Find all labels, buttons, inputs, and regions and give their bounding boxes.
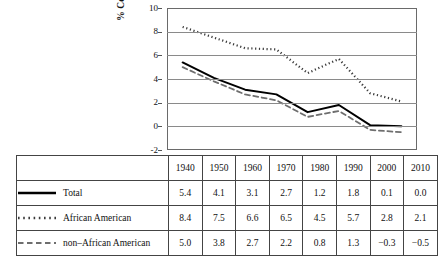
table-cell: 5.7 — [336, 206, 370, 231]
y-tick-label: -2 — [151, 146, 159, 155]
table-cell: 1.3 — [336, 231, 370, 256]
table-column-header: 1980 — [303, 156, 337, 181]
table-column-header: 1940 — [169, 156, 203, 181]
census-undercount-figure: % Census Undercount 1086420-2 1940195019… — [0, 0, 444, 265]
table-cell: 2.7 — [236, 231, 270, 256]
dashed-line-swatch — [17, 238, 57, 248]
table-cell: −0.5 — [404, 231, 438, 256]
table-cell: 2.1 — [404, 206, 438, 231]
gridline — [167, 126, 417, 127]
table-head: 19401950196019701980199020002010 — [17, 156, 438, 181]
y-tick-mark — [158, 32, 162, 33]
table-cell: 0.8 — [303, 231, 337, 256]
series-line-dashed — [183, 67, 402, 132]
table-cell: 4.5 — [303, 206, 337, 231]
table-cell: 7.5 — [202, 206, 236, 231]
y-axis-title: % Census Undercount — [113, 0, 129, 34]
table-column-header: 1960 — [236, 156, 270, 181]
plot-area — [167, 8, 417, 150]
y-axis-tick-labels: 1086420-2 — [134, 0, 162, 152]
series-line-solid — [183, 62, 402, 126]
table-cell: 1.8 — [336, 181, 370, 206]
y-tick-mark — [158, 150, 162, 151]
table-column-header: 1950 — [202, 156, 236, 181]
table-column-header: 1970 — [269, 156, 303, 181]
y-tick-mark — [158, 79, 162, 80]
gridline — [167, 32, 417, 33]
table-cell: 6.5 — [269, 206, 303, 231]
y-tick-mark — [158, 8, 162, 9]
table-row: non–African American5.03.82.72.20.81.3−0… — [17, 231, 438, 256]
table-row: Total5.44.13.12.71.21.80.10.0 — [17, 181, 438, 206]
chart-region: % Census Undercount 1086420-2 — [0, 0, 444, 152]
legend-label: non–African American — [63, 237, 150, 249]
data-table-region: 19401950196019701980199020002010 Total5.… — [16, 155, 428, 259]
solid-line-swatch — [17, 188, 57, 198]
legend-row-2: non–African American — [17, 231, 169, 256]
table-cell: 4.1 — [202, 181, 236, 206]
table-body: Total5.44.13.12.71.21.80.10.0African Ame… — [17, 181, 438, 256]
gridline — [167, 55, 417, 56]
table-cell: 1.2 — [303, 181, 337, 206]
table-cell: 5.4 — [169, 181, 203, 206]
table-cell: −0.3 — [370, 231, 404, 256]
table-cell: 0.1 — [370, 181, 404, 206]
y-tick-mark — [158, 126, 162, 127]
legend-label: African American — [63, 212, 131, 224]
y-tick-mark — [158, 55, 162, 56]
y-tick-label: 10 — [149, 4, 158, 13]
table-cell: 2.2 — [269, 231, 303, 256]
gridline — [167, 79, 417, 80]
table-row: African American8.47.56.66.54.55.72.82.1 — [17, 206, 438, 231]
series-line-dotted — [183, 27, 402, 102]
table-header-row: 19401950196019701980199020002010 — [17, 156, 438, 181]
table-cell: 2.7 — [269, 181, 303, 206]
table-column-header: 2010 — [404, 156, 438, 181]
table-cell: 0.0 — [404, 181, 438, 206]
legend-label: Total — [63, 187, 82, 199]
legend-row-0: Total — [17, 181, 169, 206]
y-tick-mark — [158, 103, 162, 104]
gridline — [167, 103, 417, 104]
legend-row-1: African American — [17, 206, 169, 231]
dotted-line-swatch — [17, 213, 57, 223]
table-cell: 3.8 — [202, 231, 236, 256]
table-column-header: 1990 — [336, 156, 370, 181]
table-corner-cell — [17, 156, 169, 181]
table-cell: 3.1 — [236, 181, 270, 206]
table-cell: 6.6 — [236, 206, 270, 231]
data-table: 19401950196019701980199020002010 Total5.… — [16, 155, 438, 256]
table-cell: 8.4 — [169, 206, 203, 231]
table-column-header: 2000 — [370, 156, 404, 181]
table-cell: 5.0 — [169, 231, 203, 256]
table-cell: 2.8 — [370, 206, 404, 231]
